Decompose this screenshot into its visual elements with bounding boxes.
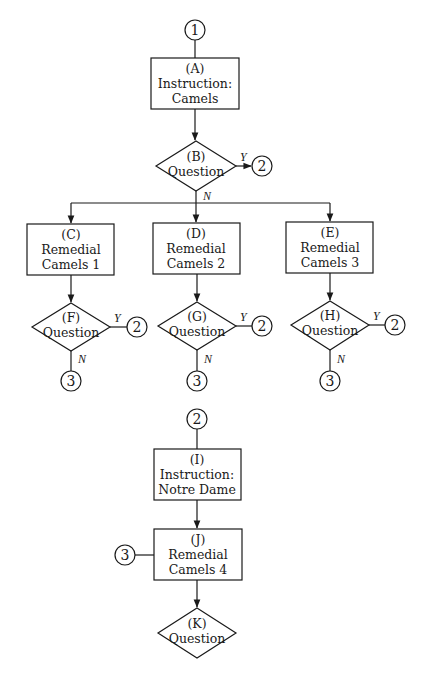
connector-entry-3: 3 [115, 545, 135, 565]
node-id: (I) [190, 452, 205, 467]
connector-entry-2: 2 [187, 409, 207, 429]
connector-label: 1 [191, 22, 200, 38]
edge-label-no: N [336, 352, 346, 366]
connector-f-yes-2: 2 [127, 317, 147, 337]
edge-label-no: N [202, 189, 212, 203]
node-d-remedial-camels-2: (D) Remedial Camels 2 [153, 223, 240, 274]
connector-label: 3 [326, 373, 335, 389]
node-id: (D) [186, 226, 206, 241]
connector-label: 2 [258, 318, 267, 334]
node-e-remedial-camels-3: (E) Remedial Camels 3 [286, 222, 373, 273]
node-id: (A) [186, 61, 205, 76]
node-id: (G) [187, 309, 207, 324]
connector-label: 2 [391, 317, 400, 333]
edge-label-yes: Y [114, 311, 122, 325]
node-id: (B) [187, 149, 206, 164]
node-i-instruction-notre-dame: (I) Instruction: Notre Dame [154, 449, 241, 500]
node-j-remedial-camels-4: (J) Remedial Camels 4 [154, 529, 242, 580]
connector-label: 2 [133, 319, 142, 335]
connector-g-no-3: 3 [187, 371, 207, 391]
connector-b-yes-2: 2 [252, 156, 272, 176]
node-text-line1: Question [169, 324, 226, 339]
node-text-line1: Instruction: [160, 467, 234, 482]
connector-label: 2 [193, 411, 202, 427]
node-id: (K) [187, 616, 206, 631]
node-k-question: (K) Question [158, 608, 236, 658]
node-text-line2: Camels 2 [167, 256, 226, 271]
node-id: (J) [191, 532, 206, 547]
node-text-line2: Camels 3 [301, 255, 360, 270]
node-text-line1: Question [43, 325, 100, 340]
connector-label: 3 [193, 373, 202, 389]
node-text-line1: Remedial [41, 242, 101, 257]
edge-label-no: N [203, 352, 213, 366]
node-text-line1: Instruction: [158, 76, 232, 91]
node-id: (F) [62, 310, 80, 325]
node-id: (C) [61, 227, 80, 242]
connector-h-yes-2: 2 [385, 315, 405, 335]
node-b-question: (B) Question [156, 141, 236, 191]
edge-label-no: N [77, 352, 87, 366]
node-text-line2: Camels 4 [169, 562, 228, 577]
node-text-line1: Remedial [166, 241, 226, 256]
node-text-line1: Question [168, 164, 225, 179]
connector-label: 2 [258, 158, 267, 174]
connector-h-no-3: 3 [320, 371, 340, 391]
edge-label-yes: Y [240, 310, 248, 324]
connector-f-no-3: 3 [61, 371, 81, 391]
edge-label-yes: Y [373, 309, 381, 323]
connector-label: 3 [67, 373, 76, 389]
node-a-instruction-camels: (A) Instruction: Camels [151, 58, 239, 109]
node-text-line2: Camels [172, 91, 219, 106]
node-g-question: (G) Question [158, 302, 236, 350]
node-text-line2: Notre Dame [158, 482, 236, 497]
edge-label-yes: Y [240, 150, 248, 164]
node-id: (E) [321, 225, 340, 240]
flowchart-canvas: 1 (A) Instruction: Camels (B) Question Y… [0, 0, 432, 684]
connector-label: 3 [121, 547, 130, 563]
node-text-line2: Camels 1 [42, 257, 101, 272]
node-c-remedial-camels-1: (C) Remedial Camels 1 [27, 224, 114, 275]
node-f-question: (F) Question [32, 303, 110, 351]
node-text-line1: Remedial [168, 547, 228, 562]
node-text-line1: Question [169, 631, 226, 646]
node-id: (H) [320, 308, 341, 323]
connector-start-1: 1 [185, 20, 205, 40]
node-text-line1: Question [302, 323, 359, 338]
node-h-question: (H) Question [291, 301, 369, 350]
connector-g-yes-2: 2 [252, 316, 272, 336]
node-text-line1: Remedial [300, 240, 360, 255]
